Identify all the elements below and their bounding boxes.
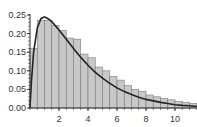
y-tick-label: 0.10 <box>8 66 26 76</box>
x-tick-label: 4 <box>85 114 90 124</box>
histogram-bar <box>110 76 117 108</box>
histogram-bar <box>124 86 131 108</box>
x-tick-label: 10 <box>170 114 180 124</box>
histogram-bar <box>59 31 66 108</box>
histogram-bar <box>45 21 52 108</box>
x-tick-label: 6 <box>114 114 119 124</box>
histogram-bar <box>103 71 110 108</box>
x-tick-label: 2 <box>56 114 61 124</box>
y-tick-label: 0.05 <box>8 84 26 94</box>
histogram-bars <box>30 21 197 108</box>
histogram-bar <box>66 38 73 108</box>
y-tick-label: 0.20 <box>8 29 26 39</box>
histogram-chart: 0.000.050.100.150.200.25246810 <box>0 0 197 127</box>
y-tick-label: 0.00 <box>8 103 26 113</box>
histogram-bar <box>132 89 139 108</box>
histogram-bar <box>37 21 44 108</box>
y-tick-label: 0.15 <box>8 47 26 57</box>
histogram-bar <box>146 95 153 108</box>
histogram-bar <box>117 80 124 108</box>
x-tick-label: 8 <box>143 114 148 124</box>
y-tick-label: 0.25 <box>8 10 26 20</box>
histogram-bar <box>52 25 59 108</box>
